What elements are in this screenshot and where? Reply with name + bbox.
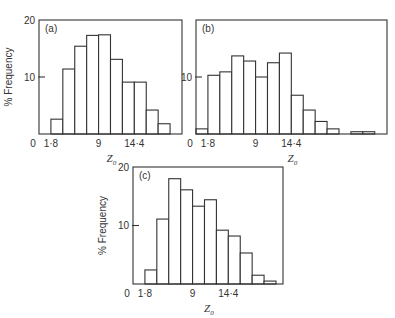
histogram-bar-c-4 xyxy=(193,206,205,284)
histogram-bar-b-9 xyxy=(303,110,315,134)
x-tick-label-a: 9 xyxy=(96,138,102,149)
y-tick-label-a: 10 xyxy=(24,72,36,83)
histogram-bar-b-11 xyxy=(327,129,339,134)
x-tick-label-b: 9 xyxy=(253,138,259,149)
x-tick-label-b: 14·4 xyxy=(281,138,301,149)
histogram-bar-b-1 xyxy=(208,75,220,134)
panel-label-b: (b) xyxy=(202,23,214,34)
histogram-bar-a-7 xyxy=(134,82,146,134)
histogram-bar-b-0 xyxy=(196,129,208,134)
panel-label-a: (a) xyxy=(45,23,57,34)
x-tick-label-b: 0 xyxy=(187,138,193,149)
histogram-bar-c-8 xyxy=(240,253,252,284)
histogram-bar-b-8 xyxy=(291,95,303,134)
histogram-bar-b-6 xyxy=(267,63,279,134)
histogram-bar-b-3 xyxy=(232,56,244,134)
panel-label-c: (c) xyxy=(139,170,151,181)
histogram-bar-a-2 xyxy=(75,46,87,134)
histogram-bar-c-0 xyxy=(145,270,157,284)
histogram-bar-a-6 xyxy=(122,82,134,134)
histogram-bar-a-0 xyxy=(51,119,63,134)
histogram-bar-b-7 xyxy=(279,53,291,134)
histogram-bar-c-2 xyxy=(169,179,181,284)
histogram-bar-a-4 xyxy=(99,35,111,134)
histogram-figure: 201001·8914·4(a)Z0% Frequency1001·8914·4… xyxy=(0,0,395,318)
histogram-bar-c-9 xyxy=(252,275,264,284)
histogram-bar-a-3 xyxy=(87,35,99,134)
histogram-bar-a-8 xyxy=(146,110,158,134)
histogram-bar-a-1 xyxy=(63,69,75,134)
histogram-bar-a-5 xyxy=(110,59,122,134)
histogram-bar-c-6 xyxy=(216,230,228,284)
histogram-bar-c-3 xyxy=(181,190,193,284)
histogram-bar-b-2 xyxy=(220,72,232,134)
x-tick-label-c: 9 xyxy=(190,288,196,299)
histogram-bar-b-5 xyxy=(256,77,268,134)
histogram-bar-b-4 xyxy=(244,61,256,134)
x-axis-label-a: Z0 xyxy=(107,152,117,167)
y-axis-label-a: % Frequency xyxy=(3,48,14,107)
x-tick-label-c: 14·4 xyxy=(218,288,238,299)
histogram-bar-c-1 xyxy=(157,219,169,284)
x-tick-label-b: 1·8 xyxy=(201,138,216,149)
histogram-bar-c-7 xyxy=(228,236,240,284)
x-axis-label-c: Z0 xyxy=(204,302,214,317)
x-tick-label-a: 0 xyxy=(30,138,36,149)
x-tick-label-a: 14·4 xyxy=(124,138,144,149)
histogram-bar-a-9 xyxy=(158,124,170,134)
y-tick-label-c: 20 xyxy=(118,162,130,173)
x-tick-label-c: 0 xyxy=(124,288,130,299)
x-tick-label-a: 1·8 xyxy=(44,138,59,149)
y-axis-label-c: % Frequency xyxy=(97,196,108,255)
y-tick-label-a: 20 xyxy=(24,15,36,26)
histogram-bar-c-5 xyxy=(204,200,216,284)
x-tick-label-c: 1·8 xyxy=(138,288,153,299)
y-tick-label-b: 10 xyxy=(181,72,193,83)
x-axis-label-b: Z0 xyxy=(288,152,298,167)
y-tick-label-c: 10 xyxy=(118,220,130,231)
histogram-bar-b-10 xyxy=(315,121,327,134)
